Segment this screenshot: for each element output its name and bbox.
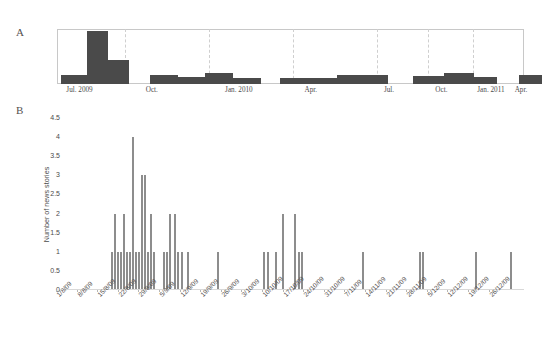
- panel-b-bar: [114, 214, 116, 290]
- panel-a-bar: [205, 73, 233, 84]
- panel-a-bar: [519, 75, 542, 84]
- panel-a-tick-label: Oct.: [146, 86, 158, 94]
- panel-a-bar: [233, 78, 261, 84]
- panel-b-x-tick-labels: 1/8/098/8/0915/8/0922/8/0929/8/095/9/091…: [64, 293, 534, 337]
- panel-a-x-axis: Jul. 2009Oct.Jan. 2010Apr.Jul.Oct.Jan. 2…: [57, 86, 524, 100]
- panel-b-bar: [138, 252, 140, 290]
- panel-a-letter: A: [16, 26, 24, 38]
- panel-a-bar: [364, 75, 388, 84]
- panel-b-bar: [181, 252, 183, 290]
- panel-b-bar: [301, 252, 303, 290]
- panel-b-y-tick-label: 0.5: [50, 267, 60, 274]
- panel-b-plot-area: [64, 118, 524, 290]
- panel-b-y-axis-label: Number of news stories: [42, 145, 51, 265]
- panel-b-bar: [177, 252, 179, 290]
- panel-a-tick-label: Jan. 2011: [477, 86, 504, 94]
- panel-b-bar: [123, 214, 125, 290]
- panel-a-tick-label: Apr.: [305, 86, 318, 94]
- panel-a-tick-label: Oct.: [435, 86, 447, 94]
- panel-a-bar: [61, 75, 87, 84]
- panel-b-y-tick-label: 3.5: [50, 152, 60, 159]
- panel-b-y-tick-label: 4: [56, 133, 60, 140]
- panel-a-gridline: [293, 29, 294, 84]
- panel-b-y-tick-label: 1.5: [50, 229, 60, 236]
- panel-a-bar: [474, 77, 497, 84]
- panel-b-bar: [144, 175, 146, 290]
- panel-a-bar: [280, 78, 310, 84]
- panel-a-tick-label: Jan. 2010: [225, 86, 253, 94]
- panel-b-bar: [263, 252, 265, 290]
- panel-b-bar: [510, 252, 512, 290]
- panel-b-y-tick-label: 1: [56, 248, 60, 255]
- panel-a-tick-label: Apr.: [515, 86, 528, 94]
- panel-a-bar: [108, 60, 129, 84]
- panel-b-chart: [64, 118, 524, 290]
- panel-a-bar: [178, 77, 205, 84]
- panel-b-bar: [174, 214, 176, 290]
- panel-b-bar: [169, 214, 171, 290]
- panel-a-bar: [337, 75, 364, 84]
- panel-b-bar: [163, 252, 165, 290]
- panel-b-y-tick-label: 2.5: [50, 190, 60, 197]
- panel-a-tick-label: Jul. 2009: [66, 86, 92, 94]
- panel-b-bar: [141, 175, 143, 290]
- panel-a-bar: [150, 75, 178, 84]
- panel-b-bar: [362, 252, 364, 290]
- panel-a-bar: [413, 76, 444, 84]
- panel-a-bar: [310, 78, 337, 84]
- panel-b-y-tick-label: 2: [56, 210, 60, 217]
- panel-b-y-tick-label: 4.5: [50, 114, 60, 121]
- panel-b-y-tick-label: 3: [56, 171, 60, 178]
- panel-b-bar: [120, 252, 122, 290]
- panel-a-tick-label: Jul.: [384, 86, 394, 94]
- panel-b-letter: B: [16, 104, 23, 116]
- panel-a-bar: [444, 73, 474, 84]
- panel-a-bar: [87, 31, 108, 84]
- panel-b-bar: [132, 137, 134, 290]
- panel-b-bar: [117, 252, 119, 290]
- panel-a-chart: [57, 29, 524, 84]
